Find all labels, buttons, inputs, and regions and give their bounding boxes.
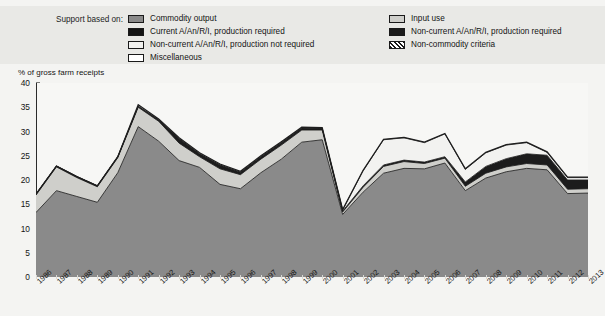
legend-item-label: Non-current A/An/R/I, production not req… <box>150 41 314 49</box>
legend-item: Non-current A/An/R/I, production require… <box>389 26 562 38</box>
legend-swatch-icon <box>128 15 144 23</box>
y-axis-unit-label: % of gross farm receipts <box>18 68 104 77</box>
legend-swatch-icon <box>389 15 405 23</box>
legend-title: Support based on: <box>56 15 123 24</box>
y-axis-tick-label: 30 <box>6 127 30 137</box>
legend-item: Non-current A/An/R/I, production not req… <box>128 39 314 51</box>
y-axis-tick-label: 10 <box>6 224 30 234</box>
stacked-area-chart <box>36 83 588 277</box>
legend-item: Non-commodity criteria <box>389 39 562 51</box>
y-axis-tick-label: 20 <box>6 175 30 185</box>
y-axis-tick-label: 0 <box>6 272 30 282</box>
legend-item-label: Non-commodity criteria <box>411 41 495 49</box>
y-axis-tick-label: 5 <box>6 248 30 258</box>
legend-item-label: Current A/An/R/I, production required <box>150 28 285 36</box>
x-axis-tick-labels: 1986198719881989199019911992199319941995… <box>36 279 588 316</box>
legend-item-label: Commodity output <box>150 15 216 23</box>
legend-swatch-icon <box>389 41 405 49</box>
y-axis-tick-label: 25 <box>6 151 30 161</box>
x-axis-tick-label: 2013 <box>587 268 605 286</box>
legend-column-right: Input useNon-current A/An/R/I, productio… <box>389 13 562 52</box>
legend-item: Input use <box>389 13 562 25</box>
legend-item: Miscellaneous <box>128 52 314 64</box>
legend-item-label: Miscellaneous <box>150 54 202 62</box>
y-axis-tick-label: 35 <box>6 102 30 112</box>
legend-item-label: Input use <box>411 15 445 23</box>
legend-item: Current A/An/R/I, production required <box>128 26 314 38</box>
legend-swatch-icon <box>389 28 405 36</box>
legend-item-label: Non-current A/An/R/I, production require… <box>411 28 562 36</box>
legend-item: Commodity output <box>128 13 314 25</box>
legend-swatch-icon <box>128 41 144 49</box>
plot-area <box>36 83 588 277</box>
chart-legend: Support based on: Commodity outputCurren… <box>0 6 605 64</box>
chart-page: Support based on: Commodity outputCurren… <box>0 0 605 316</box>
y-axis-tick-labels: 0510152025303540 <box>0 83 36 277</box>
y-axis-tick-label: 40 <box>6 78 30 88</box>
y-axis-tick-label: 15 <box>6 199 30 209</box>
legend-swatch-icon <box>128 54 144 62</box>
legend-swatch-icon <box>128 28 144 36</box>
legend-column-left: Commodity outputCurrent A/An/R/I, produc… <box>128 13 314 65</box>
